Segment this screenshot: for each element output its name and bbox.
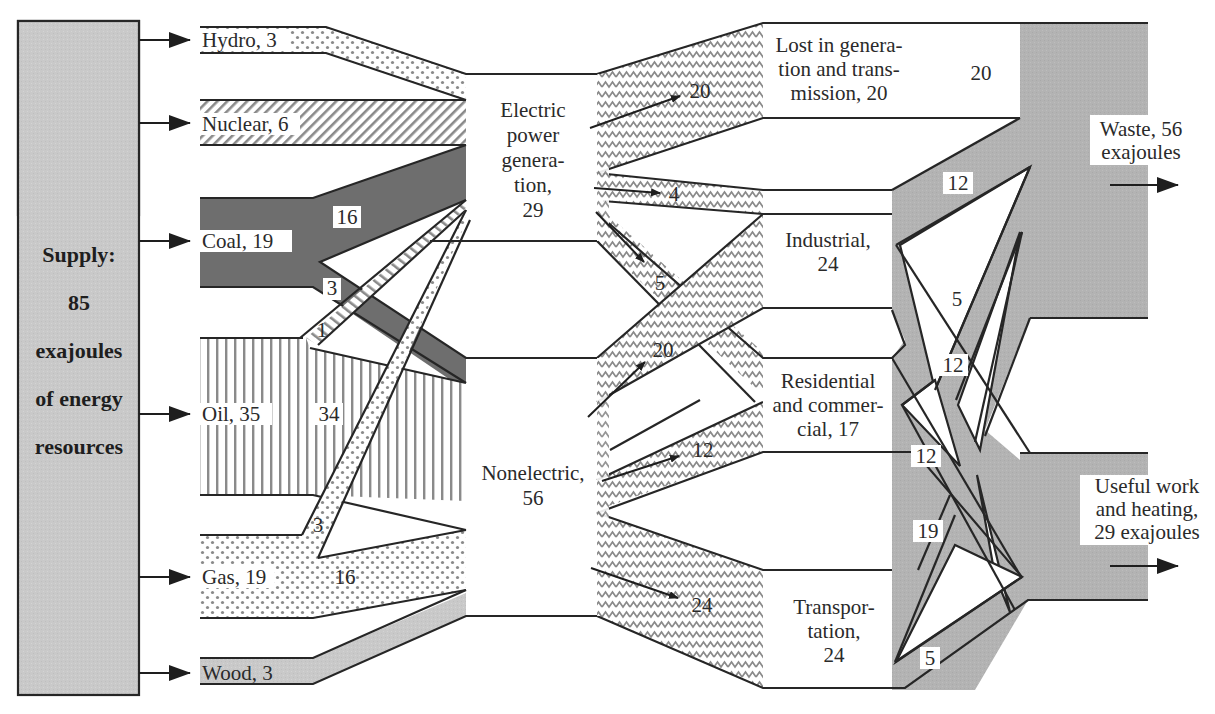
supply-node: Supply: 85 exajoules of energy resources [18,21,139,695]
label-nonelectric-to-residential: 12 [693,438,714,462]
supply-unit: exajoules [36,338,123,363]
residential-label-line1: Residential [781,369,876,393]
waste-label-line1: Waste, 56 [1100,117,1182,141]
residential-label-line2: and commer- [773,393,884,417]
electric-label-line4: tion, [514,173,552,197]
useful-label-line1: Useful work [1095,474,1200,498]
energy-flow-diagram: Supply: 85 exajoules of energy resources [0,0,1215,714]
label-electric-to-lost: 20 [690,79,711,103]
useful-label-line2: and heating, [1096,497,1199,521]
label-nonelectric-to-transportation: 24 [692,593,714,617]
useful-label-line3: 29 exajoules [1094,520,1200,544]
lost-label-line1: Lost in genera- [775,33,902,57]
label-gas: Gas, 19 [202,565,266,589]
transportation-label-line1: Transpor- [793,595,875,619]
label-electric-to-residential: 5 [655,271,666,295]
label-gas-to-electric: 3 [313,513,324,537]
label-coal: Coal, 19 [202,229,273,253]
lost-label-line2: tion and trans- [778,57,899,81]
supply-label-line4: of energy [35,386,122,411]
label-nuclear: Nuclear, 6 [202,112,289,136]
label-hydro: Hydro, 3 [202,28,277,52]
label-industrial-to-waste: 12 [948,171,969,195]
label-lost-to-waste: 20 [971,61,992,85]
residential-label-line3: cial, 17 [797,417,859,441]
label-gas-to-nonelectric: 16 [335,565,356,589]
electric-value: 29 [523,198,544,222]
electric-label-line1: Electric [500,98,565,122]
transportation-value: 24 [824,643,846,667]
label-oil: Oil, 35 [202,402,260,426]
node-electric-power: Electric power genera- tion, 29 [500,98,565,222]
label-oil-to-nonelectric: 34 [319,402,341,426]
nonelectric-label: Nonelectric, [481,461,584,485]
label-transportation-to-waste: 19 [918,519,939,543]
supply-arrows [139,40,190,673]
industrial-value: 24 [818,252,840,276]
lost-label-line3: mission, 20 [791,81,888,105]
node-nonelectric: Nonelectric, 56 [481,461,584,510]
nonelectric-value: 56 [523,486,544,510]
electric-label-line3: genera- [502,148,565,172]
transportation-label-line2: tation, [807,619,860,643]
electric-label-line2: power [507,123,559,147]
supply-label-line5: resources [35,434,124,459]
label-industrial-to-useful: 12 [943,353,964,377]
label-residential-to-useful: 12 [916,444,937,468]
label-electric-to-industrial: 4 [669,182,680,206]
waste-label-line2: exajoules [1101,140,1180,164]
industrial-label: Industrial, [785,228,871,252]
supply-total: 85 [68,290,90,315]
label-coal-to-nonelectric: 3 [327,276,338,300]
label-transportation-to-useful: 5 [925,646,936,670]
nonelectric-right-strip [597,358,609,616]
supply-label-line1: Supply: [42,242,115,267]
label-oil-to-electric: 1 [317,318,328,342]
label-wood: Wood, 3 [202,661,273,685]
label-nonelectric-to-industrial: 20 [653,338,674,362]
label-coal-to-electric: 16 [337,205,358,229]
flow-electric-to-industrial [597,173,892,214]
label-residential-to-waste: 5 [952,287,963,311]
